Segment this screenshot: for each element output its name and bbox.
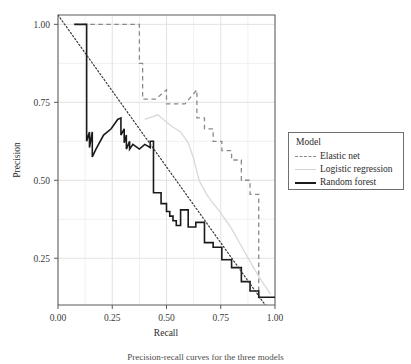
legend-label-elastic-net: Elastic net [320,151,360,161]
axis-tick-labels: 0.000.250.500.751.000.250.500.751.00 [33,20,283,323]
legend-key-logistic-regression [295,164,316,174]
x-tick-label: 0.75 [212,313,229,323]
x-tick-label: 0.50 [158,313,175,323]
data-series-layer [74,24,275,300]
y-tick-label: 0.75 [33,98,50,108]
legend-item-logistic-regression[interactable]: Logistic regression [295,164,393,174]
major-gridlines [58,15,275,305]
x-tick-label: 1.00 [267,313,284,323]
x-tick-label: 0.00 [50,313,67,323]
figure-caption: Precision-recall curves for the three mo… [0,352,411,362]
legend-key-random-forest [295,177,316,187]
y-tick-label: 1.00 [33,20,50,30]
x-tick-label: 0.25 [104,313,121,323]
legend-label-random-forest: Random forest [320,177,376,187]
series-line-random-forest [74,24,275,297]
legend: Model Elastic net Logistic regression Ra… [288,132,404,190]
legend-label-logistic-regression: Logistic regression [320,164,393,174]
legend-item-random-forest[interactable]: Random forest [295,177,376,187]
precision-recall-figure: 0.000.250.500.751.000.250.500.751.00 Rec… [0,0,411,364]
y-axis-title: Precision [12,142,22,178]
legend-key-elastic-net [295,151,316,161]
y-tick-label: 0.25 [33,254,50,264]
y-tick-label: 0.50 [33,176,50,186]
legend-title: Model [296,137,321,147]
legend-item-elastic-net[interactable]: Elastic net [295,151,360,161]
x-axis-title: Recall [154,328,179,338]
